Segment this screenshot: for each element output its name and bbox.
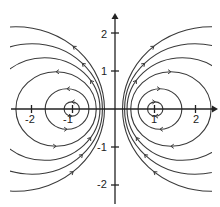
y-tick-label-1: 1	[101, 65, 107, 77]
y-axis-arrow-icon	[112, 13, 119, 19]
y-tick-label-neg1: -1	[97, 141, 107, 153]
x-axis-arrow-icon	[212, 106, 218, 113]
x-tick-label-neg1: -1	[63, 113, 73, 125]
field-line-diagram: -2 -1 1 2 2 1 -1 -2	[0, 0, 220, 207]
y-tick-label-2: 2	[101, 28, 107, 40]
x-tick-label-2: 2	[193, 113, 199, 125]
y-tick-label-neg2: -2	[97, 178, 107, 190]
x-tick-label-neg2: -2	[25, 113, 35, 125]
direction-arrows	[53, 46, 174, 175]
x-tick-label-1: 1	[151, 113, 157, 125]
